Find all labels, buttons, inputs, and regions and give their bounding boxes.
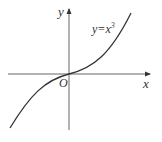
curve-label-exponent: 3 [110,21,115,30]
cubic-function-graph: y x O y=x3 [0,0,162,142]
y-axis-label: y [56,4,64,19]
curve-label-base: y=x [91,22,111,36]
curve-label: y=x3 [91,21,115,36]
origin-label: O [59,76,68,90]
x-axis-label: x [142,76,149,91]
cubic-curve [10,13,131,128]
